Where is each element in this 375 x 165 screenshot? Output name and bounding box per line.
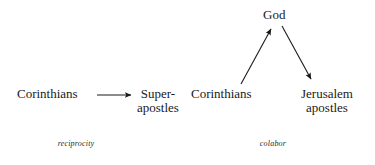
arrow-corinthians-to-god [241, 29, 271, 84]
node-corinthians-reciprocity: Corinthians [17, 87, 78, 101]
node-god: God [263, 8, 285, 22]
node-corinthians-colabor: Corinthians [191, 87, 252, 101]
node-jerusalem-apostles: Jerusalem apostles [301, 87, 353, 115]
node-super-apostles-line1: Super- [141, 86, 175, 101]
arrow-god-to-jerusalem-apostles [282, 26, 311, 79]
diagram-figure: Corinthians Super- apostles reciprocity … [0, 0, 375, 165]
node-jerusalem-apostles-line1: Jerusalem [301, 86, 353, 101]
node-super-apostles-line2: apostles [137, 101, 179, 115]
node-super-apostles: Super- apostles [137, 87, 179, 115]
caption-colabor: colabor [248, 139, 298, 148]
node-jerusalem-apostles-line2: apostles [301, 101, 353, 115]
caption-reciprocity: reciprocity [46, 139, 106, 148]
